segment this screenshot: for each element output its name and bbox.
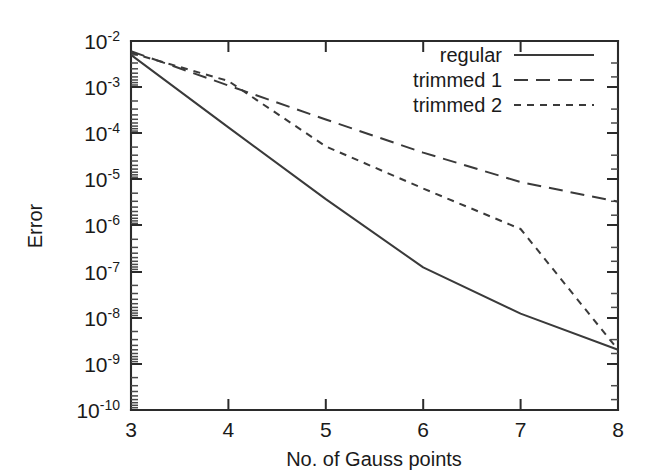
x-tick-label: 5 [320,418,332,441]
y-tick-label: 10-5 [84,166,120,191]
series-line-trimmed-1 [131,51,618,202]
x-axis-title: No. of Gauss points [286,448,462,470]
y-axis-tick-labels: 10-2 10-3 10-4 10-5 10-6 10-7 10-8 10-9 [76,28,120,422]
y-axis-major-ticks [131,41,142,410]
chart-legend: regular trimmed 1 trimmed 2 [413,44,594,116]
x-tick-label: 3 [125,418,137,441]
x-tick-label: 6 [417,418,429,441]
y-tick-label: 10-3 [84,74,120,99]
y-tick-label: 10-6 [84,212,120,237]
y-tick-label: 10-8 [84,305,120,330]
error-vs-gauss-points-chart: 10-2 10-3 10-4 10-5 10-6 10-7 10-8 10-9 [0,0,654,476]
series-line-regular [131,55,618,350]
x-tick-label: 4 [223,418,235,441]
y-tick-label: 10-7 [84,259,120,284]
y-tick-label: 10-2 [84,28,120,53]
legend-label-trimmed-2: trimmed 2 [413,94,502,116]
chart-figure: 10-2 10-3 10-4 10-5 10-6 10-7 10-8 10-9 [0,0,654,476]
x-tick-label: 7 [515,418,527,441]
x-axis-tick-labels: 3 4 5 6 7 8 [125,418,624,441]
x-tick-label: 8 [612,418,624,441]
legend-label-trimmed-1: trimmed 1 [413,69,502,91]
legend-label-regular: regular [440,44,503,66]
y-axis-title: Error [24,203,46,248]
series-line-trimmed-2 [131,53,618,350]
y-tick-label: 10-4 [84,120,120,145]
y-tick-label: 10-10 [76,397,120,422]
y-tick-label: 10-9 [84,351,120,376]
